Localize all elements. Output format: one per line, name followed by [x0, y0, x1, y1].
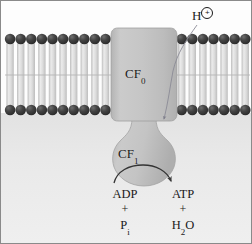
product-water-o: O — [185, 218, 194, 232]
cf1-label-subscript: 1 — [134, 156, 139, 166]
proton-label: H+ — [192, 9, 213, 24]
proton-label-text: H — [192, 8, 201, 23]
cf0-label: CF0 — [125, 67, 145, 84]
cf0-label-text: CF — [125, 66, 141, 81]
cf1-label: CF1 — [118, 147, 138, 164]
product-plus: + — [159, 202, 207, 217]
reactant-plus: + — [102, 202, 148, 217]
product-atp: ATP — [159, 186, 207, 202]
reactants-label: ADP + Pi — [102, 186, 148, 236]
positive-charge-icon: + — [201, 7, 213, 19]
cf0-label-subscript: 0 — [141, 76, 146, 86]
product-water-subscript: 2 — [181, 227, 186, 237]
products-label: ATP + H2O — [159, 186, 207, 236]
reactant-phosphate-subscript: i — [127, 227, 130, 237]
reactant-adp: ADP — [102, 186, 148, 202]
product-water: H2O — [159, 217, 207, 236]
cf1-label-text: CF — [118, 146, 134, 161]
product-water-h: H — [172, 218, 181, 232]
atp-synthase-figure: CF0 CF1 H+ ADP + Pi ATP + H2O — [0, 0, 252, 244]
reactant-phosphate: Pi — [102, 217, 148, 236]
